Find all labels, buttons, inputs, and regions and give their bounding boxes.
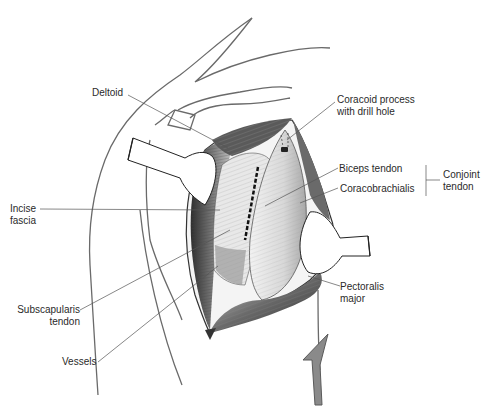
label-biceps-tendon: Biceps tendon <box>339 163 402 175</box>
label-conjoint-line1: Conjoint <box>443 169 480 181</box>
label-coracoid-process: Coracoid process with drill hole <box>337 94 415 118</box>
skin-fold <box>303 334 328 405</box>
label-vessels: Vessels <box>62 356 96 368</box>
label-incise-fascia: Incise fascia <box>10 203 36 227</box>
label-coracoid-line2: with drill hole <box>337 106 415 118</box>
label-coracobrachialis: Coracobrachialis <box>340 183 414 195</box>
label-conjoint-tendon: Conjoint tendon <box>443 169 480 193</box>
label-pectoralis-line2: major <box>340 293 384 305</box>
label-pectoralis-major: Pectoralis major <box>340 281 384 305</box>
label-subscapularis-tendon: Subscapularis tendon <box>12 304 80 328</box>
label-incise-line2: fascia <box>10 215 36 227</box>
label-subscap-line2: tendon <box>12 316 80 328</box>
label-deltoid: Deltoid <box>92 87 123 99</box>
label-conjoint-line2: tendon <box>443 181 480 193</box>
label-incise-line1: Incise <box>10 203 36 215</box>
label-subscap-line1: Subscapularis <box>12 304 80 316</box>
label-coracoid-line1: Coracoid process <box>337 94 415 106</box>
shoulder-surgery-illustration <box>0 0 496 412</box>
label-pectoralis-line1: Pectoralis <box>340 281 384 293</box>
